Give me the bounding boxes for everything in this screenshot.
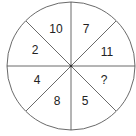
number-wheel-diagram: 10 7 11 ? 5 8 4 2 (0, 0, 136, 136)
segment-top-right: 7 (83, 22, 90, 36)
segment-top-left: 10 (49, 22, 63, 36)
center-dot (70, 65, 73, 68)
segment-bottom-right: 5 (82, 94, 89, 108)
segment-right-lower: ? (101, 73, 108, 87)
segment-right-upper: 11 (101, 45, 114, 59)
segment-left-upper: 2 (32, 43, 39, 57)
segment-left-lower: 4 (34, 73, 41, 87)
segment-bottom-left: 8 (54, 94, 61, 108)
